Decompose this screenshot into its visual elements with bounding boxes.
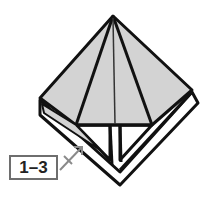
reference-arrow — [60, 147, 82, 170]
step-reference-label: 1–3 — [9, 155, 58, 180]
origami-diagram: 1–3 — [0, 0, 206, 199]
